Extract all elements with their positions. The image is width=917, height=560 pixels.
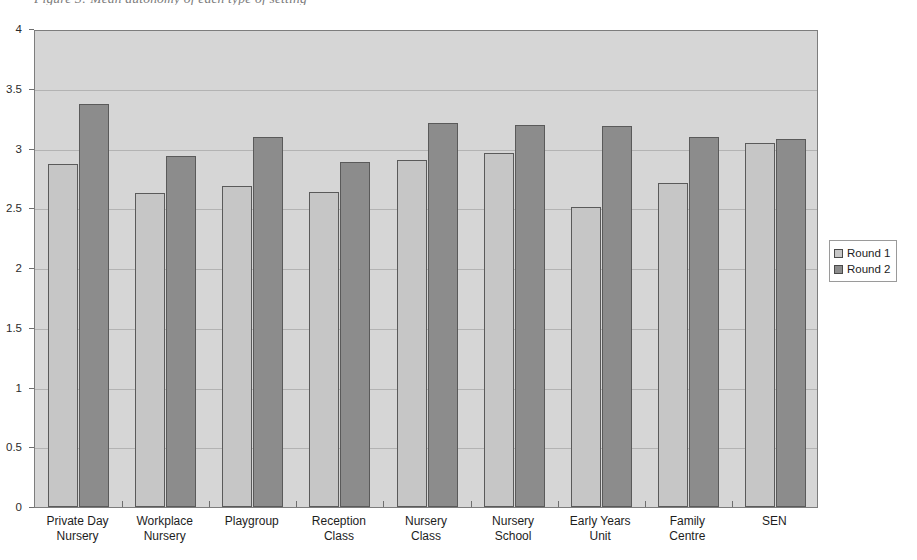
legend-swatch-icon	[834, 249, 843, 258]
legend-item: Round 1	[834, 245, 890, 261]
bar-round-2	[689, 137, 719, 507]
gridline	[35, 90, 817, 91]
bar-round-2	[515, 125, 545, 507]
y-axis-tick-label: 0	[0, 502, 22, 514]
bar-round-2	[166, 156, 196, 507]
x-axis-tick-mark	[209, 501, 210, 507]
x-axis-tick-mark	[732, 501, 733, 507]
x-axis-category-label: Private Day Nursery	[34, 514, 121, 543]
bar-chart: 00.511.522.533.54 Private Day NurseryWor…	[0, 0, 917, 560]
bar-round-1	[48, 164, 78, 507]
bar-round-2	[428, 123, 458, 507]
y-axis-tick-label: 4	[0, 24, 22, 36]
bar-round-1	[309, 192, 339, 507]
y-axis-tick-label: 3.5	[0, 84, 22, 96]
legend-label: Round 1	[847, 247, 890, 259]
bar-round-2	[79, 104, 109, 507]
x-axis-tick-mark	[383, 501, 384, 507]
x-axis-tick-mark	[122, 501, 123, 507]
bar-round-1	[571, 207, 601, 507]
y-axis-tick-label: 3	[0, 144, 22, 156]
plot-area	[34, 30, 818, 508]
bar-round-1	[135, 193, 165, 507]
x-axis-category-label: Playgroup	[208, 514, 295, 529]
legend-swatch-icon	[834, 265, 843, 274]
y-axis-tick-label: 1	[0, 383, 22, 395]
x-axis-category-label: Nursery School	[470, 514, 557, 543]
bar-round-1	[658, 183, 688, 507]
legend-item: Round 2	[834, 261, 890, 277]
legend-label: Round 2	[847, 263, 890, 275]
bar-round-2	[602, 126, 632, 507]
y-axis-tick-label: 2.5	[0, 203, 22, 215]
x-axis-category-label: SEN	[731, 514, 818, 529]
bar-round-1	[397, 160, 427, 507]
bar-round-2	[776, 139, 806, 507]
bar-round-2	[340, 162, 370, 507]
bar-round-2	[253, 137, 283, 507]
y-axis-tick-label: 2	[0, 263, 22, 275]
x-axis-tick-mark	[471, 501, 472, 507]
bar-round-1	[745, 143, 775, 507]
legend: Round 1Round 2	[829, 240, 897, 282]
y-axis-tick-label: 1.5	[0, 323, 22, 335]
y-axis-tick-label: 0.5	[0, 442, 22, 454]
x-axis-tick-mark	[645, 501, 646, 507]
x-axis-category-label: Family Centre	[644, 514, 731, 543]
bar-round-1	[484, 153, 514, 507]
x-axis-tick-mark	[296, 501, 297, 507]
bar-round-1	[222, 186, 252, 507]
x-axis-category-label: Workplace Nursery	[121, 514, 208, 543]
x-axis-category-label: Reception Class	[295, 514, 382, 543]
x-axis-category-label: Nursery Class	[382, 514, 469, 543]
x-axis-tick-mark	[558, 501, 559, 507]
x-axis-category-label: Early Years Unit	[557, 514, 644, 543]
